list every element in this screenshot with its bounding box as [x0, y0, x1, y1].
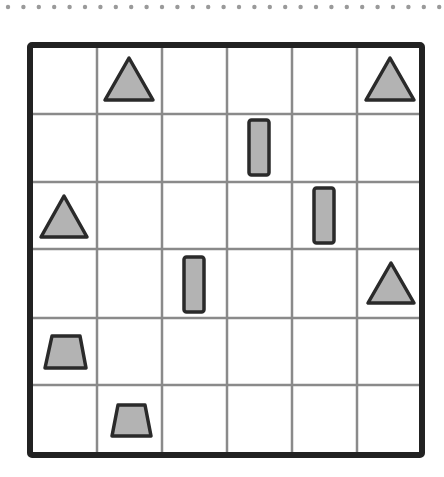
dot — [6, 5, 10, 9]
dot — [437, 5, 441, 9]
rectangle-icon — [314, 188, 334, 243]
dot — [83, 5, 87, 9]
dot — [206, 5, 210, 9]
dot — [129, 5, 133, 9]
rectangle-icon — [184, 257, 204, 312]
dot — [422, 5, 426, 9]
dot — [268, 5, 272, 9]
dot — [52, 5, 56, 9]
dot — [329, 5, 333, 9]
trapezoid-icon — [112, 405, 151, 436]
dot — [160, 5, 164, 9]
dot — [406, 5, 410, 9]
trapezoid-icon — [45, 336, 86, 368]
dot — [37, 5, 41, 9]
dot — [98, 5, 102, 9]
dot — [298, 5, 302, 9]
dot — [252, 5, 256, 9]
dot — [144, 5, 148, 9]
dot — [191, 5, 195, 9]
dot — [314, 5, 318, 9]
dotted-separator — [6, 5, 442, 9]
dot — [360, 5, 364, 9]
dot — [221, 5, 225, 9]
dot — [67, 5, 71, 9]
dot — [375, 5, 379, 9]
dot — [283, 5, 287, 9]
dot — [114, 5, 118, 9]
dot — [345, 5, 349, 9]
dot — [237, 5, 241, 9]
rectangle-icon — [249, 120, 269, 175]
dot — [175, 5, 179, 9]
dot — [391, 5, 395, 9]
puzzle-diagram — [0, 0, 444, 477]
dot — [21, 5, 25, 9]
puzzle-grid — [30, 45, 422, 455]
